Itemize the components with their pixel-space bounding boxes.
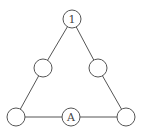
node-top-label: 1 (69, 13, 76, 26)
nodes: 1 A (7, 10, 135, 126)
node-bottom-middle: A (62, 108, 80, 126)
node-bottom-left (7, 108, 25, 126)
node-bottom-right (117, 108, 135, 126)
node-bottom-middle-label: A (66, 111, 76, 124)
node-top: 1 (63, 10, 81, 28)
edges (16, 19, 126, 117)
triangle-diagram: 1 A (0, 0, 146, 131)
node-mid-left (34, 59, 52, 77)
node-mid-right (89, 59, 107, 77)
